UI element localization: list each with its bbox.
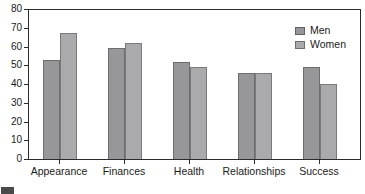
bar-women-appearance — [60, 33, 77, 159]
legend-label-women: Women — [310, 39, 346, 50]
x-category-label: Relationships — [222, 165, 285, 177]
y-tick-label: 70 — [0, 23, 22, 33]
bar-women-health — [190, 67, 207, 159]
bar-men-relationships — [238, 73, 255, 159]
bar-men-finances — [108, 48, 125, 159]
y-tick-label: 50 — [0, 60, 22, 70]
y-tick-mark — [24, 84, 28, 85]
y-tick-mark — [24, 65, 28, 66]
bar-men-success — [303, 67, 320, 159]
bar-chart: Men Women 01020304050607080 AppearanceFi… — [0, 0, 365, 194]
y-tick-mark — [24, 140, 28, 141]
y-tick-label: 80 — [0, 4, 22, 14]
cropped-caption-box — [1, 187, 14, 194]
x-tick-mark — [319, 160, 320, 164]
legend-item-men: Men — [295, 25, 346, 36]
legend-label-men: Men — [310, 25, 330, 36]
y-tick-mark — [24, 47, 28, 48]
y-tick-label: 30 — [0, 98, 22, 108]
y-tick-mark — [24, 9, 28, 10]
y-tick-mark — [24, 122, 28, 123]
bar-women-success — [320, 84, 337, 159]
bar-women-finances — [125, 43, 142, 159]
y-tick-mark — [24, 103, 28, 104]
x-tick-mark — [124, 160, 125, 164]
legend: Men Women — [295, 25, 346, 50]
y-tick-mark — [24, 159, 28, 160]
y-tick-label: 0 — [0, 154, 22, 164]
x-tick-mark — [59, 160, 60, 164]
men-swatch-icon — [295, 27, 305, 35]
x-tick-mark — [189, 160, 190, 164]
y-tick-mark — [24, 28, 28, 29]
y-tick-label: 20 — [0, 117, 22, 127]
bar-men-health — [173, 62, 190, 160]
plot-area: Men Women — [28, 9, 361, 160]
bar-women-relationships — [255, 73, 272, 159]
y-tick-label: 60 — [0, 42, 22, 52]
x-category-label: Success — [299, 165, 339, 177]
x-tick-mark — [254, 160, 255, 164]
women-swatch-icon — [295, 41, 305, 49]
x-category-label: Appearance — [31, 165, 88, 177]
y-tick-label: 40 — [0, 79, 22, 89]
y-tick-label: 10 — [0, 135, 22, 145]
x-category-label: Health — [174, 165, 204, 177]
bar-men-appearance — [43, 60, 60, 159]
legend-item-women: Women — [295, 39, 346, 50]
x-category-label: Finances — [103, 165, 146, 177]
